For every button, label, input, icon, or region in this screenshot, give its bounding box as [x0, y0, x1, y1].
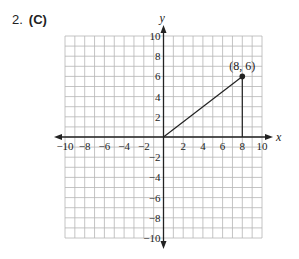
y-tick-label: 8	[155, 50, 161, 62]
y-tick-label: −6	[149, 192, 161, 204]
x-axis-label: x	[275, 130, 282, 144]
y-tick-label: 2	[155, 111, 161, 123]
x-tick-label: −10	[56, 140, 74, 152]
y-tick-label: −2	[149, 151, 161, 163]
y-tick-label: −10	[143, 232, 161, 244]
x-tick-label: 2	[180, 140, 186, 152]
x-tick-label: −4	[118, 140, 130, 152]
plotted-figure: (8, 6)	[164, 59, 256, 137]
y-tick-label: 4	[155, 91, 161, 103]
y-tick-label: −8	[149, 212, 161, 224]
y-tick-label: −4	[149, 171, 161, 183]
coordinate-plane: xy −10−8−6−4−2246810108642−2−4−6−8−10 (8…	[0, 0, 299, 259]
x-tick-label: −8	[79, 140, 91, 152]
y-tick-label: 10	[150, 30, 162, 42]
x-tick-label: 8	[240, 140, 246, 152]
x-tick-label: 6	[220, 140, 226, 152]
x-tick-label: −2	[138, 140, 150, 152]
x-tick-label: −6	[99, 140, 111, 152]
y-axis-down-arrow-icon	[161, 241, 167, 249]
y-tick-label: 6	[155, 70, 161, 82]
x-tick-label: 4	[200, 140, 206, 152]
point-label: (8, 6)	[229, 59, 255, 73]
y-axis-up-arrow-icon	[161, 25, 167, 33]
axes: xy	[54, 11, 282, 249]
x-tick-label: 10	[257, 140, 269, 152]
point-marker	[240, 74, 246, 80]
y-axis-label: y	[159, 11, 166, 25]
